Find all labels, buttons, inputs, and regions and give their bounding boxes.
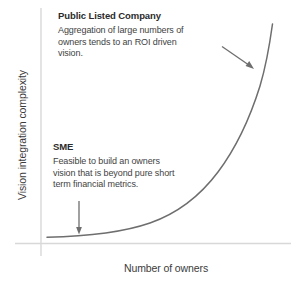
chart-figure: Public Listed Company Aggregation of lar… bbox=[0, 0, 305, 290]
arrow-public-listed-company bbox=[222, 47, 254, 70]
annotation-line: Aggregation of large numbers of bbox=[58, 25, 218, 37]
annotation-line: term financial metrics. bbox=[53, 179, 203, 191]
annotation-line: Feasible to build an owners bbox=[53, 156, 203, 168]
arrow-sme bbox=[76, 201, 82, 235]
annotation-sme-body: Feasible to build an owners vision that … bbox=[53, 156, 203, 191]
annotation-line: owners tends to an ROI driven bbox=[58, 37, 218, 49]
annotation-public-listed-company-body: Aggregation of large numbers of owners t… bbox=[58, 25, 218, 60]
x-axis-label: Number of owners bbox=[41, 262, 291, 274]
annotation-sme: SME Feasible to build an owners vision t… bbox=[53, 141, 203, 191]
annotation-line: vision that is beyond pure short bbox=[53, 168, 203, 180]
annotation-public-listed-company: Public Listed Company Aggregation of lar… bbox=[58, 10, 218, 60]
y-axis-label: Vision integration complexity bbox=[16, 30, 28, 240]
annotation-public-listed-company-title: Public Listed Company bbox=[58, 10, 218, 22]
annotation-sme-title: SME bbox=[53, 141, 203, 153]
annotation-line: vision. bbox=[58, 48, 218, 60]
